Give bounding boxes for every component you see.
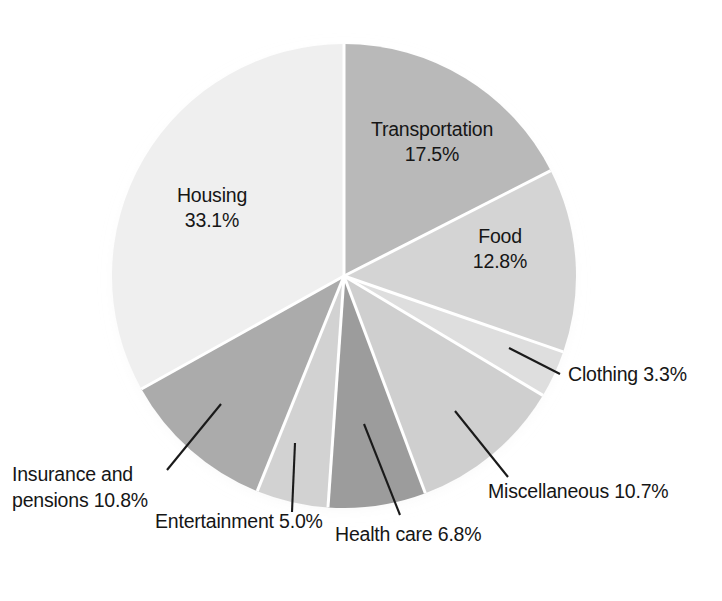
slice-label-housing-line1: Housing [177, 184, 247, 206]
pie-chart: Transportation 17.5% Food 12.8% Housing … [0, 0, 722, 601]
callout-label-insurance-pensions-line2: pensions 10.8% [12, 489, 148, 511]
pie-chart-canvas: Transportation 17.5% Food 12.8% Housing … [0, 0, 722, 601]
slice-label-transportation-line1: Transportation [371, 118, 493, 140]
callout-label-insurance-pensions: Insurance and pensions 10.8% [12, 463, 148, 511]
slice-label-food-line1: Food [478, 225, 522, 247]
callout-label-health-care: Health care 6.8% [335, 523, 481, 545]
callout-label-miscellaneous: Miscellaneous 10.7% [488, 480, 668, 502]
slice-label-housing-line2: 33.1% [185, 209, 239, 231]
callout-label-entertainment: Entertainment 5.0% [155, 510, 323, 532]
callout-label-clothing: Clothing 3.3% [568, 363, 687, 385]
slice-label-food-line2: 12.8% [473, 250, 527, 272]
callout-label-insurance-pensions-line1: Insurance and [12, 463, 133, 485]
slice-label-transportation-line2: 17.5% [405, 143, 459, 165]
